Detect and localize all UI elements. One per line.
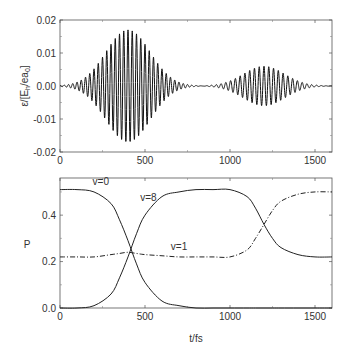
x-tick-label: 500 (137, 311, 154, 322)
bottom-panel: 0.00.20.4 050010001500 P t/fs v=0v=8v=1 (24, 176, 332, 344)
x-tick-label: 0 (57, 155, 63, 166)
y-tick-label: 0.02 (37, 15, 57, 26)
y-tick-label: -0.02 (33, 147, 56, 158)
population-annotations: v=0v=8v=1 (93, 176, 188, 252)
y-tick-label: -0.01 (33, 114, 56, 125)
annotation-v8: v=8 (140, 192, 157, 203)
figure: 0.020.010.00-0.01-0.02 050010001500 ε/[E… (0, 0, 350, 357)
bottom-ticks (60, 178, 332, 308)
x-tick-label: 1000 (219, 155, 242, 166)
y-tick-label: 0.01 (37, 48, 57, 59)
y-tick-label: 0.2 (42, 256, 56, 267)
top-x-tick-labels: 050010001500 (57, 155, 326, 166)
annotation-v0: v=0 (93, 176, 110, 187)
annotation-v1: v=1 (171, 241, 188, 252)
population-lines (60, 189, 332, 308)
y-tick-label: 0.0 (42, 303, 56, 314)
bottom-x-tick-labels: 050010001500 (57, 311, 326, 322)
top-y-axis-label: ε/[Eh/ea0] (19, 65, 31, 106)
line-v0 (60, 189, 332, 308)
x-tick-label: 500 (137, 155, 154, 166)
line-v8 (60, 189, 332, 308)
x-tick-label: 1500 (304, 155, 327, 166)
bottom-y-tick-labels: 0.00.20.4 (42, 210, 56, 314)
y-tick-label: 0.00 (37, 81, 57, 92)
line-v1 (60, 192, 332, 258)
x-tick-label: 1000 (219, 311, 242, 322)
top-y-tick-labels: 0.020.010.00-0.01-0.02 (33, 15, 56, 158)
bottom-plot-frame (60, 178, 332, 308)
field-line (60, 30, 332, 142)
bottom-y-axis-label: P (24, 239, 31, 250)
y-tick-label: 0.4 (42, 210, 56, 221)
x-tick-label: 0 (57, 311, 63, 322)
bottom-x-axis-label: t/fs (189, 333, 202, 344)
x-tick-label: 1500 (304, 311, 327, 322)
top-panel: 0.020.010.00-0.01-0.02 050010001500 ε/[E… (19, 15, 332, 167)
